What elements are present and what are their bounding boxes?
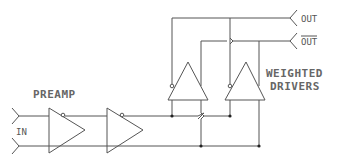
output-inverted-label: OUT [301,37,318,47]
inversion-bubble-icon [120,113,124,117]
inversion-bubble-icon [170,84,174,88]
drivers-label-line1: WEIGHTED [266,67,323,80]
input-label: IN [16,127,27,137]
junction-dot [228,114,231,117]
circuit-diagram: IN PREAMP OUT OU [0,0,337,162]
drivers-label-line2: DRIVERS [270,80,320,93]
input-connector-bottom [12,138,49,154]
output-connector [290,10,297,26]
weighted-driver-1 [168,62,208,100]
preamp-label: PREAMP [33,88,76,101]
input-connector-top [12,108,49,124]
inversion-bubble-icon [61,113,65,117]
inversion-bubble-icon [228,84,232,88]
junction-dot [257,144,260,147]
junction-dot [170,114,173,117]
output-label: OUT [301,14,318,24]
junction-dot [199,144,202,147]
output-inverted-connector [290,33,297,49]
